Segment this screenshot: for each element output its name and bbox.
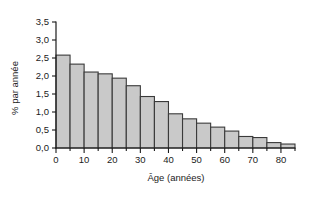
x-axis: 01020304050607080 — [53, 148, 295, 165]
y-tick-label: 0,0 — [36, 142, 49, 153]
y-axis-title: % par année — [9, 61, 20, 115]
bar — [239, 136, 253, 148]
bar — [211, 127, 225, 148]
bar — [183, 119, 197, 148]
x-tick-label: 30 — [135, 154, 146, 165]
bar — [112, 78, 126, 148]
y-tick-label: 1,0 — [36, 106, 49, 117]
bar — [154, 102, 168, 148]
bar — [253, 138, 267, 148]
bars-group — [56, 55, 295, 148]
bar — [267, 143, 281, 148]
bar-chart-svg: 0,00,51,01,52,02,53,03,5 010203040506070… — [0, 0, 323, 198]
bar — [56, 55, 70, 148]
y-axis: 0,00,51,01,52,02,53,03,5 — [36, 16, 56, 153]
x-tick-label: 80 — [276, 154, 287, 165]
bar — [140, 97, 154, 148]
bar — [168, 114, 182, 148]
bar — [70, 64, 84, 148]
x-tick-label: 50 — [191, 154, 202, 165]
x-tick-label: 0 — [53, 154, 58, 165]
y-tick-label: 3,5 — [36, 16, 49, 27]
x-tick-label: 20 — [107, 154, 118, 165]
bar — [126, 86, 140, 148]
y-tick-label: 0,5 — [36, 124, 49, 135]
chart-figure: 0,00,51,01,52,02,53,03,5 010203040506070… — [0, 0, 323, 198]
bar — [98, 74, 112, 148]
y-tick-label: 2,5 — [36, 52, 49, 63]
x-tick-label: 70 — [248, 154, 259, 165]
bar — [225, 131, 239, 148]
bar — [197, 123, 211, 148]
bar — [84, 72, 98, 148]
y-tick-label: 3,0 — [36, 34, 49, 45]
x-tick-label: 10 — [79, 154, 90, 165]
x-tick-label: 60 — [219, 154, 230, 165]
y-tick-label: 2,0 — [36, 70, 49, 81]
x-tick-label: 40 — [163, 154, 174, 165]
x-axis-title: Âge (années) — [147, 172, 204, 183]
y-tick-label: 1,5 — [36, 88, 49, 99]
